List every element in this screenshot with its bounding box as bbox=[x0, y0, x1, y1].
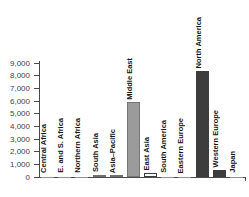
bar bbox=[178, 177, 191, 178]
bar bbox=[161, 177, 174, 178]
y-axis-tick bbox=[34, 101, 40, 102]
bar-label: South America bbox=[159, 120, 168, 173]
bar bbox=[93, 175, 106, 177]
y-axis-tick bbox=[34, 63, 40, 64]
bar bbox=[144, 173, 157, 177]
y-axis-tick-label: 8,000 bbox=[0, 71, 30, 80]
bar-label: Eastern Europe bbox=[176, 118, 185, 173]
x-axis-line bbox=[39, 177, 246, 178]
x-axis-end-tick bbox=[245, 177, 246, 181]
y-axis-tick bbox=[34, 113, 40, 114]
y-axis-tick-label: 7,000 bbox=[0, 84, 30, 93]
y-axis-tick-label: 3,000 bbox=[0, 135, 30, 144]
bar-label: South Asia bbox=[91, 133, 100, 172]
bar bbox=[230, 177, 243, 178]
bar-label: North America bbox=[194, 17, 203, 68]
bar-label: Japan bbox=[228, 151, 237, 173]
bar-label: E. and S. Africa bbox=[56, 118, 65, 173]
y-axis-tick bbox=[34, 177, 40, 178]
bar bbox=[110, 175, 123, 177]
y-axis-tick-label: 6,000 bbox=[0, 97, 30, 106]
bar bbox=[196, 71, 209, 177]
bar-chart: 01,0002,0003,0004,0005,0006,0007,0008,00… bbox=[0, 0, 249, 197]
y-axis-tick-label: 2,000 bbox=[0, 147, 30, 156]
y-axis-tick-label: 4,000 bbox=[0, 122, 30, 131]
y-axis-tick-label: 5,000 bbox=[0, 109, 30, 118]
bar-label: Asia–Pacific bbox=[108, 129, 117, 173]
plot-area: 01,0002,0003,0004,0005,0006,0007,0008,00… bbox=[0, 0, 249, 197]
bar-label: Central Africa bbox=[39, 124, 48, 173]
bar-label: Middle East bbox=[125, 58, 134, 100]
bar-label: Western Europe bbox=[211, 110, 220, 167]
y-axis-tick-label: 1,000 bbox=[0, 160, 30, 169]
y-axis-tick-label: 9,000 bbox=[0, 59, 30, 68]
bar bbox=[41, 177, 54, 178]
bar bbox=[213, 170, 226, 177]
bar bbox=[58, 177, 71, 178]
y-axis-tick-label: 0 bbox=[0, 173, 30, 182]
y-axis-tick bbox=[34, 88, 40, 89]
bar-label: East Asia bbox=[142, 137, 151, 171]
bar bbox=[127, 102, 140, 177]
bar bbox=[75, 177, 88, 178]
y-axis-tick bbox=[34, 75, 40, 76]
bar-label: Northern Africa bbox=[73, 118, 82, 173]
